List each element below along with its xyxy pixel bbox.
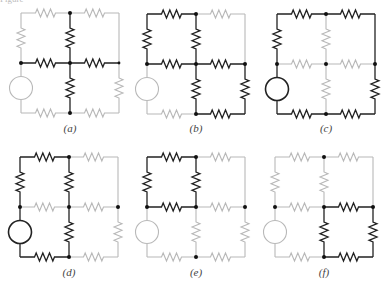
- resistor-icon: [192, 207, 200, 257]
- resistor-icon: [196, 110, 245, 118]
- node-dot-icon: [324, 12, 328, 16]
- resistor-icon: [69, 153, 118, 161]
- resistor-icon: [324, 153, 373, 161]
- resistor-icon: [20, 153, 69, 161]
- resistor-icon: [143, 157, 151, 207]
- panel-label-a: (a): [64, 122, 77, 134]
- node-dot-icon: [67, 155, 71, 159]
- voltage-source-icon: [266, 64, 289, 114]
- resistor-icon: [147, 110, 196, 118]
- resistor-icon: [277, 10, 326, 18]
- node-dot-icon: [145, 205, 149, 209]
- resistor-icon: [66, 63, 74, 113]
- resistor-icon: [21, 9, 70, 17]
- panel-label-d: (d): [63, 266, 76, 278]
- node-dot-icon: [275, 62, 279, 66]
- resistor-icon: [324, 203, 373, 211]
- resistor-icon: [275, 203, 324, 211]
- resistor-icon: [275, 253, 324, 261]
- circuit-panel-f: [264, 153, 378, 261]
- node-dot-icon: [324, 62, 328, 66]
- resistor-icon: [21, 109, 70, 117]
- circuit-panel-c: [266, 10, 380, 118]
- resistor-icon: [147, 153, 196, 161]
- resistor-icon: [192, 64, 200, 114]
- resistor-icon: [192, 157, 200, 207]
- node-dot-icon: [68, 111, 72, 115]
- node-dot-icon: [116, 205, 120, 209]
- resistor-icon: [16, 157, 24, 207]
- resistor-icon: [322, 14, 330, 64]
- resistor-icon: [326, 110, 375, 118]
- resistor-icon: [196, 253, 245, 261]
- circuit-panel-b: [136, 10, 250, 118]
- node-dot-icon: [118, 62, 121, 65]
- node-dot-icon: [194, 62, 198, 66]
- resistor-icon: [20, 203, 69, 211]
- panel-label-e: (e): [190, 266, 202, 278]
- resistor-icon: [21, 59, 70, 67]
- circuit-panel-e: [136, 153, 250, 261]
- resistor-icon: [196, 60, 245, 68]
- panel-label-b: (b): [190, 122, 203, 134]
- resistor-icon: [277, 60, 326, 68]
- node-dot-icon: [371, 205, 375, 209]
- node-dot-icon: [19, 61, 23, 65]
- node-dot-icon: [67, 255, 71, 259]
- node-dot-icon: [373, 62, 377, 66]
- resistor-icon: [371, 64, 379, 114]
- node-dot-icon: [243, 205, 247, 209]
- resistor-icon: [70, 109, 119, 117]
- circuit-panel-a: [10, 9, 124, 117]
- node-dot-icon: [324, 112, 328, 116]
- panel-label-f: (f): [319, 266, 329, 278]
- node-dot-icon: [194, 255, 198, 259]
- resistor-icon: [196, 203, 245, 211]
- resistor-icon: [147, 203, 196, 211]
- resistor-icon: [70, 9, 119, 17]
- resistor-icon: [241, 64, 249, 114]
- resistor-icon: [322, 64, 330, 114]
- node-dot-icon: [68, 61, 72, 65]
- node-dot-icon: [194, 155, 198, 159]
- node-dot-icon: [18, 205, 22, 209]
- voltage-source-icon: [264, 207, 287, 257]
- resistor-icon: [69, 203, 118, 211]
- resistor-icon: [115, 63, 123, 113]
- node-dot-icon: [322, 255, 326, 259]
- resistor-icon: [69, 253, 118, 261]
- resistor-icon: [326, 60, 375, 68]
- resistor-icon: [65, 157, 73, 207]
- voltage-source-icon: [10, 63, 33, 113]
- resistor-icon: [326, 10, 375, 18]
- resistor-icon: [20, 253, 69, 261]
- resistor-icon: [273, 14, 281, 64]
- resistor-icon: [320, 157, 328, 207]
- node-dot-icon: [194, 205, 198, 209]
- resistor-icon: [17, 13, 25, 63]
- resistor-icon: [147, 60, 196, 68]
- resistor-icon: [114, 207, 122, 257]
- circuit-panel-d: [9, 153, 123, 261]
- resistor-icon: [147, 253, 196, 261]
- node-dot-icon: [194, 12, 198, 16]
- resistor-icon: [320, 207, 328, 257]
- node-dot-icon: [67, 205, 71, 209]
- voltage-source-icon: [9, 207, 32, 257]
- voltage-source-icon: [136, 64, 159, 114]
- node-dot-icon: [145, 62, 149, 66]
- node-dot-icon: [68, 11, 72, 15]
- node-dot-icon: [273, 205, 277, 209]
- resistor-icon: [369, 207, 377, 257]
- resistor-icon: [196, 10, 245, 18]
- panel-label-c: (c): [320, 122, 332, 134]
- resistor-icon: [192, 14, 200, 64]
- resistor-icon: [143, 14, 151, 64]
- resistor-icon: [277, 110, 326, 118]
- node-dot-icon: [322, 155, 326, 159]
- resistor-icon: [65, 207, 73, 257]
- resistor-icon: [271, 157, 279, 207]
- resistor-icon: [196, 153, 245, 161]
- resistor-icon: [147, 10, 196, 18]
- resistor-icon: [70, 59, 119, 67]
